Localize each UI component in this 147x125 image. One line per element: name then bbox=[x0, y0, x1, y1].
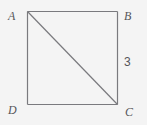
side-length-label-bc: 3 bbox=[124, 56, 131, 68]
vertex-label-c: C bbox=[125, 106, 133, 118]
geometry-figure: A B C D 3 bbox=[0, 0, 147, 125]
vertex-label-a: A bbox=[8, 10, 15, 22]
vertex-label-d: D bbox=[8, 104, 17, 116]
diagonal-ac-line bbox=[28, 12, 118, 105]
vertex-label-b: B bbox=[124, 10, 131, 22]
